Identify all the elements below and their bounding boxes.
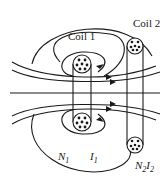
arrow-icon (106, 106, 112, 112)
coil-diagram: Coil 1 Coil 2 N1 I1 N2I2 (0, 0, 168, 182)
arrow-icon (110, 101, 116, 107)
coil2-top-section (127, 38, 143, 54)
n1-label: N1 (57, 150, 69, 165)
coil1-top-section (73, 55, 91, 73)
coil1-label: Coil 1 (68, 30, 95, 42)
n2i2-label: N2I2 (134, 159, 154, 174)
coil2-label: Coil 2 (133, 17, 160, 29)
arrow-icon (106, 74, 112, 80)
arrow-icon (110, 79, 116, 85)
coil1-bottom-section (73, 113, 91, 131)
i1-label: I1 (89, 150, 98, 165)
coil2-bottom-section (127, 137, 143, 153)
